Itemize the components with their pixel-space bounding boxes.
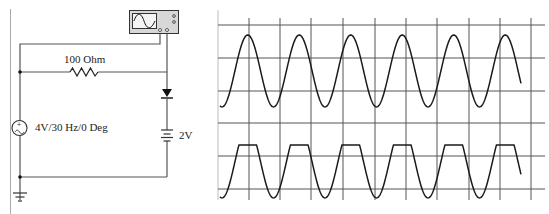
- input-sine-trace: [220, 35, 521, 107]
- oscilloscope-display: [0, 0, 549, 214]
- scope-grid-lines: [218, 10, 545, 200]
- clipped-output-trace: [220, 145, 521, 198]
